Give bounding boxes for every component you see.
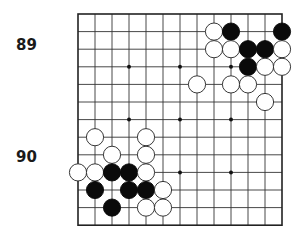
black-stone — [273, 23, 290, 40]
white-stone — [188, 76, 205, 93]
go-board — [0, 0, 307, 239]
white-stone — [86, 164, 103, 181]
white-stone — [103, 146, 120, 163]
hoshi-point — [229, 170, 233, 174]
black-stone — [86, 181, 103, 198]
black-stone — [103, 164, 120, 181]
white-stone — [154, 181, 171, 198]
white-stone — [86, 129, 103, 146]
white-stone — [239, 76, 256, 93]
white-stone — [222, 76, 239, 93]
black-stone — [256, 41, 273, 58]
white-stone — [137, 164, 154, 181]
hoshi-point — [178, 170, 182, 174]
black-stone — [120, 164, 137, 181]
black-stone — [120, 181, 137, 198]
white-stone — [154, 199, 171, 216]
white-stone — [256, 58, 273, 75]
black-stone — [137, 181, 154, 198]
black-stone — [239, 41, 256, 58]
white-stone — [256, 93, 273, 110]
white-stone — [137, 199, 154, 216]
hoshi-point — [127, 118, 131, 122]
white-stone — [273, 41, 290, 58]
hoshi-point — [178, 65, 182, 69]
black-stone — [239, 58, 256, 75]
hoshi-point — [229, 65, 233, 69]
black-stone — [222, 23, 239, 40]
white-stone — [137, 146, 154, 163]
white-stone — [205, 23, 222, 40]
hoshi-point — [229, 118, 233, 122]
black-stone — [103, 199, 120, 216]
white-stone — [69, 164, 86, 181]
white-stone — [205, 41, 222, 58]
hoshi-point — [127, 65, 131, 69]
white-stone — [222, 41, 239, 58]
white-stone — [273, 58, 290, 75]
hoshi-point — [178, 118, 182, 122]
white-stone — [137, 129, 154, 146]
